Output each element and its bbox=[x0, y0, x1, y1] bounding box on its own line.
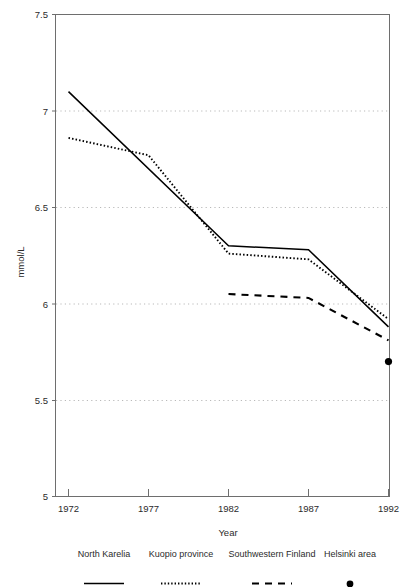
x-tick-label-1992: 1992 bbox=[378, 503, 399, 514]
x-tick-label-1972: 1972 bbox=[58, 503, 79, 514]
chart-figure: 7.5 7 6.5 6 5.5 5 mmol/L 1972 1977 1982 … bbox=[0, 0, 406, 587]
y-tick-label-5.5: 5.5 bbox=[35, 395, 48, 406]
x-tick-label-1977: 1977 bbox=[138, 503, 159, 514]
y-tick-label-7: 7 bbox=[43, 106, 48, 117]
y-axis-title: mmol/L bbox=[15, 246, 26, 277]
x-axis-title: Year bbox=[218, 527, 237, 538]
x-tick-label-1982: 1982 bbox=[218, 503, 239, 514]
legend-label-kuopio-province: Kuopio province bbox=[149, 549, 214, 559]
legend-label-southwestern-finland: Southwestern Finland bbox=[228, 549, 315, 559]
y-tick-label-7.5: 7.5 bbox=[35, 9, 48, 20]
y-tick-label-5: 5 bbox=[43, 491, 48, 502]
y-tick-label-6.5: 6.5 bbox=[35, 202, 48, 213]
data-point-helsinki-area bbox=[385, 358, 392, 365]
figure-background bbox=[0, 0, 406, 587]
legend-label-helsinki-area: Helsinki area bbox=[324, 549, 376, 559]
y-tick-label-6: 6 bbox=[43, 299, 48, 310]
legend-label-north-karelia: North Karelia bbox=[78, 549, 131, 559]
x-tick-label-1987: 1987 bbox=[298, 503, 319, 514]
